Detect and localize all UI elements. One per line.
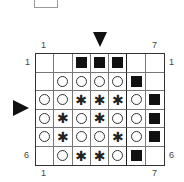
chart-cell [36, 91, 54, 110]
asterisk-icon: ✱ [112, 130, 124, 144]
filled-square-icon [94, 57, 105, 68]
filled-square-icon [76, 57, 87, 68]
chart-cell [36, 54, 54, 73]
open-circle-icon [76, 76, 87, 87]
open-circle-icon [131, 94, 142, 105]
asterisk-icon: ✱ [75, 93, 87, 107]
chart-cell [73, 110, 91, 129]
chart-cell [146, 91, 164, 110]
chart-cell [36, 110, 54, 129]
asterisk-icon: ✱ [75, 149, 87, 163]
open-circle-icon [112, 150, 123, 161]
open-circle-icon [57, 150, 68, 161]
filled-square-icon [131, 150, 142, 161]
open-circle-icon [39, 94, 50, 105]
open-circle-icon [39, 131, 50, 142]
chart-cell [73, 128, 91, 147]
top-col-label-first: 1 [41, 40, 46, 50]
filled-square-icon [131, 76, 142, 87]
chart-cell [109, 110, 127, 129]
chart-cell [91, 73, 109, 92]
open-circle-icon [94, 131, 105, 142]
asterisk-icon: ✱ [57, 130, 69, 144]
chart-cell [54, 54, 72, 73]
asterisk-icon: ✱ [57, 111, 69, 125]
chart-cell [91, 54, 109, 73]
asterisk-icon: ✱ [94, 93, 106, 107]
top-col-label-last: 7 [152, 40, 157, 50]
open-circle-icon [39, 113, 50, 124]
chart-cell [91, 128, 109, 147]
chart-cell [127, 128, 145, 147]
filled-square-icon [149, 131, 160, 142]
chart-cell [146, 54, 164, 73]
row-marker-arrow-icon [13, 100, 29, 116]
left-row-label-last: 6 [24, 150, 29, 160]
open-circle-icon [57, 94, 68, 105]
chart-cell [54, 91, 72, 110]
chart-cell: ✱ [54, 128, 72, 147]
chart-cell [146, 128, 164, 147]
chart-cell [54, 147, 72, 166]
chart-cell: ✱ [109, 128, 127, 147]
chart-cell [36, 73, 54, 92]
chart-cell: ✱ [73, 91, 91, 110]
chart-cell [127, 110, 145, 129]
bottom-col-label-last: 7 [152, 168, 157, 178]
right-row-label-first: 1 [169, 57, 174, 67]
open-circle-icon [112, 113, 123, 124]
chart-cell [36, 147, 54, 166]
chart-cell [109, 54, 127, 73]
chart-cell [146, 73, 164, 92]
open-circle-icon [57, 76, 68, 87]
column-marker-arrow-icon [93, 32, 107, 47]
chart-cell [127, 54, 145, 73]
filled-square-icon [149, 113, 160, 124]
asterisk-icon: ✱ [94, 149, 106, 163]
chart-cell [109, 147, 127, 166]
chart-cell [73, 54, 91, 73]
chart-cell [109, 73, 127, 92]
asterisk-icon: ✱ [112, 93, 124, 107]
open-circle-icon [76, 113, 87, 124]
chart-cell: ✱ [109, 91, 127, 110]
chart-cell: ✱ [54, 110, 72, 129]
chart-cell [36, 128, 54, 147]
bottom-col-label-first: 1 [41, 168, 46, 178]
open-circle-icon [131, 131, 142, 142]
open-circle-icon [94, 76, 105, 87]
chart-cell [127, 73, 145, 92]
filled-square-icon [149, 94, 160, 105]
left-row-label-first: 1 [25, 57, 30, 67]
chart-cell: ✱ [73, 147, 91, 166]
stitch-chart-grid: ✱✱✱✱✱✱✱✱✱ [35, 53, 165, 166]
chart-cell [54, 73, 72, 92]
chart-cell: ✱ [91, 110, 109, 129]
chart-cell [127, 147, 145, 166]
chart-cell [73, 73, 91, 92]
chart-cell [146, 110, 164, 129]
chart-cell: ✱ [91, 91, 109, 110]
legend-box [34, 0, 58, 8]
open-circle-icon [76, 131, 87, 142]
chart-cell: ✱ [91, 147, 109, 166]
chart-cell [146, 147, 164, 166]
open-circle-icon [131, 113, 142, 124]
chart-cell [127, 91, 145, 110]
asterisk-icon: ✱ [94, 111, 106, 125]
right-row-label-last: 6 [169, 150, 174, 160]
open-circle-icon [112, 76, 123, 87]
filled-square-icon [112, 57, 123, 68]
